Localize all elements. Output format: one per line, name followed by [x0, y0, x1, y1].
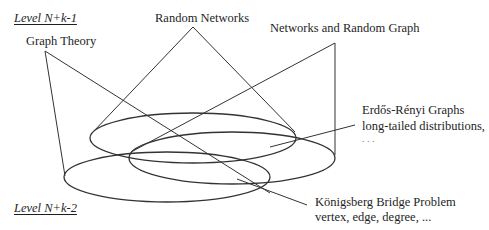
annotation-erdos-line2: long-tailed distributions, — [362, 119, 485, 134]
concept-graph-theory: Graph Theory — [26, 34, 96, 49]
ellipse-graph-theory — [64, 152, 270, 202]
ellipse-random-networks — [90, 113, 296, 163]
annotation-konigsberg-line2: vertex, edge, degree, ... — [315, 210, 431, 225]
annotation-erdos-line1: Erdős-Rényi Graphs — [362, 103, 464, 118]
cone-line-graph-theory-left — [45, 51, 65, 176]
pointer-erdos — [270, 125, 355, 147]
concept-random-networks: Random Networks — [155, 11, 249, 26]
annotation-konigsberg-line1: Königsberg Bridge Problem — [315, 195, 456, 210]
concept-networks-random-graph: Networks and Random Graph — [270, 21, 420, 36]
annotation-erdos-ellipsis: . . . — [362, 131, 375, 146]
cone-line-graph-theory-right — [45, 51, 270, 193]
level-label-lower: Level N+k-2 — [14, 201, 77, 216]
level-label-upper: Level N+k-1 — [14, 11, 77, 26]
